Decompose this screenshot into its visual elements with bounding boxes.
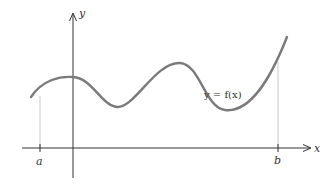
function-graph: y x y = f(x) a b xyxy=(0,0,334,188)
interval-left-label: a xyxy=(36,155,43,168)
x-axis-label: x xyxy=(314,142,321,155)
y-axis-label: y xyxy=(78,7,86,20)
interval-right-label: b xyxy=(274,154,281,167)
y-axis xyxy=(70,13,77,178)
x-axis xyxy=(22,145,311,152)
function-curve xyxy=(31,37,287,110)
curve-label: y = f(x) xyxy=(203,89,242,100)
